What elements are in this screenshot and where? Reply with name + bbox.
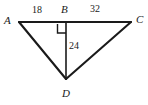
vertex-label-b: B	[61, 4, 68, 15]
geometry-diagram	[0, 0, 148, 105]
vertex-label-a: A	[4, 15, 11, 26]
measure-label-ab: 18	[32, 5, 42, 15]
geometry-figure: A B C D 18 32 24	[0, 0, 148, 105]
measure-label-bd: 24	[69, 41, 79, 51]
segment-AD	[19, 22, 66, 79]
vertex-label-d: D	[62, 88, 70, 99]
right-angle-mark-icon	[58, 24, 67, 33]
measure-label-bc: 32	[90, 4, 100, 14]
vertex-label-c: C	[136, 14, 143, 25]
